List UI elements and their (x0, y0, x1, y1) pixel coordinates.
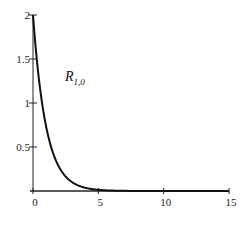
y-tick-label: 1 (25, 97, 31, 109)
y-tick-label: 0.5 (16, 141, 30, 153)
x-tick-label: 10 (160, 196, 172, 208)
y-tick-label: 1.5 (16, 53, 30, 65)
x-tick-label: 5 (98, 196, 104, 208)
x-tick-label: 0 (32, 196, 38, 208)
chart-canvas: 0510150.511.52 R1,0 (0, 0, 250, 226)
x-tick-label: 15 (226, 196, 238, 208)
curve-label: R1,0 (64, 69, 85, 87)
data-curve (33, 15, 228, 191)
y-tick-label: 2 (25, 9, 31, 21)
axes (30, 15, 229, 191)
ticks: 0510150.511.52 (16, 9, 237, 208)
